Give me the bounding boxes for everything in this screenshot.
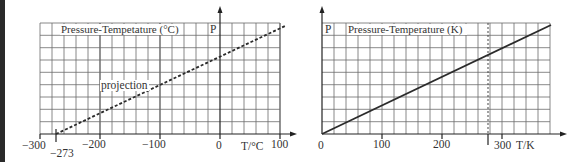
left-chart: Pressure-Tempetature (°C) P projection −…: [22, 6, 297, 159]
right-tick-label-200: 200: [433, 138, 451, 150]
right-tick-label-100: 100: [373, 138, 391, 150]
right-chart-title: Pressure-Temperature (K): [348, 23, 463, 36]
left-chart-title: Pressure-Tempetature (°C): [61, 23, 179, 36]
left-grid: [40, 23, 280, 134]
left-tick-label-minus300: −300: [22, 139, 46, 151]
left-x-axis-label: T/°C: [241, 140, 264, 152]
left-tick-label-minus200: −200: [82, 138, 106, 150]
right-y-axis-label: P: [325, 23, 331, 35]
right-chart: Pressure-Temperature (K) P 0 100 200 300…: [318, 6, 567, 151]
right-x-axis-label: T/K: [516, 139, 535, 151]
right-pressure-line: [322, 25, 551, 134]
left-tick-label-minus273: −273: [50, 147, 74, 159]
left-x-axis-arrow-icon: [290, 132, 297, 137]
left-y-axis-label: P: [210, 23, 216, 35]
figure: Pressure-Tempetature (°C) P projection −…: [0, 0, 585, 162]
left-tick-label-100: 100: [271, 138, 289, 150]
left-projection-line: [56, 26, 285, 134]
right-x-axis-arrow-icon: [560, 132, 567, 137]
right-tick-label-0: 0: [318, 139, 324, 151]
projection-annotation: projection: [101, 79, 148, 92]
left-y-axis-arrow-icon: [218, 6, 223, 13]
right-tick-label-300: 300: [494, 139, 512, 151]
left-tick-label-minus100: −100: [142, 138, 166, 150]
left-tick-label-0: 0: [216, 139, 222, 151]
right-y-axis-arrow-icon: [320, 6, 325, 13]
